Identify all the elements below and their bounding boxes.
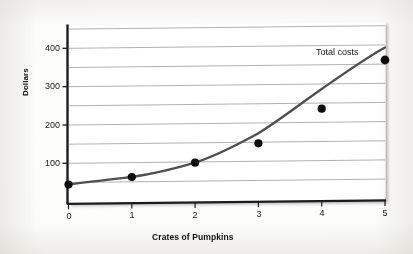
data-point (191, 159, 199, 167)
data-point (318, 105, 326, 113)
data-point (254, 139, 262, 147)
series-annotation-total-costs: Total costs (316, 47, 359, 57)
x-tick-label-3: 3 (249, 209, 269, 219)
x-tick-label-0: 0 (59, 211, 79, 221)
x-tick-label-1: 1 (122, 210, 142, 220)
data-point (381, 56, 390, 65)
y-axis-title: Dollars (21, 68, 30, 96)
x-tick-label-5: 5 (375, 208, 395, 218)
figure-container: 100 200 300 400 0 1 2 3 4 5 Dollars Crat… (0, 0, 413, 254)
x-tick-label-2: 2 (185, 210, 205, 220)
y-tick-label-100: 100 (32, 158, 60, 168)
data-point (128, 173, 136, 181)
y-tick-label-400: 400 (32, 43, 60, 53)
y-tick-label-200: 200 (32, 120, 60, 130)
x-tick-label-4: 4 (312, 208, 332, 218)
data-point (64, 181, 72, 189)
x-axis-title: Crates of Pumpkins (152, 232, 234, 242)
y-tick-label-300: 300 (32, 81, 60, 91)
